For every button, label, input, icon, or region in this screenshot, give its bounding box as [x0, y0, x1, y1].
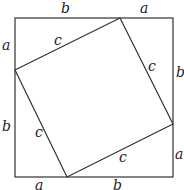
label-right-b: b [176, 64, 184, 80]
pythagorean-diagram: b a a b b a a b c c c c [0, 0, 184, 190]
label-bottom-b: b [113, 177, 122, 190]
label-right-a: a [175, 146, 183, 162]
inner-square [15, 18, 173, 177]
label-left-b: b [2, 118, 11, 134]
label-left-a: a [2, 37, 10, 53]
label-inner-left-c: c [35, 124, 43, 140]
label-top-a: a [140, 0, 148, 16]
outer-square [15, 18, 173, 177]
label-top-b: b [61, 0, 70, 16]
label-inner-right-c: c [148, 58, 156, 74]
label-bottom-a: a [35, 177, 43, 190]
label-inner-top-c: c [54, 32, 62, 48]
label-inner-bottom-c: c [119, 149, 127, 165]
